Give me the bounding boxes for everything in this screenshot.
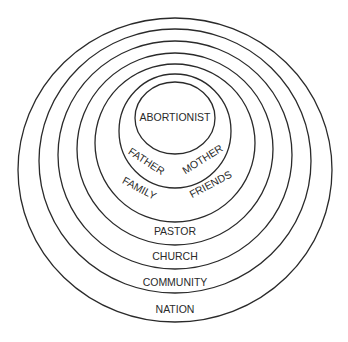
label-nation: NATION xyxy=(156,303,195,315)
circle-family-friends xyxy=(95,64,255,222)
label-abortionist: ABORTIONIST xyxy=(140,111,212,123)
label-community: COMMUNITY xyxy=(143,276,208,288)
label-family: FAMILY xyxy=(121,174,159,202)
label-mother: MOTHER xyxy=(180,142,225,177)
label-father: FATHER xyxy=(126,145,167,177)
circle-father-mother xyxy=(119,74,231,188)
label-friends: FRIENDS xyxy=(187,168,233,200)
diagram-canvas: ABORTIONIST FATHER MOTHER FAMILY FRIENDS… xyxy=(0,0,348,342)
label-pastor: PASTOR xyxy=(154,225,197,237)
label-church: CHURCH xyxy=(152,250,198,262)
concentric-influence-diagram: ABORTIONIST FATHER MOTHER FAMILY FRIENDS… xyxy=(0,0,348,342)
